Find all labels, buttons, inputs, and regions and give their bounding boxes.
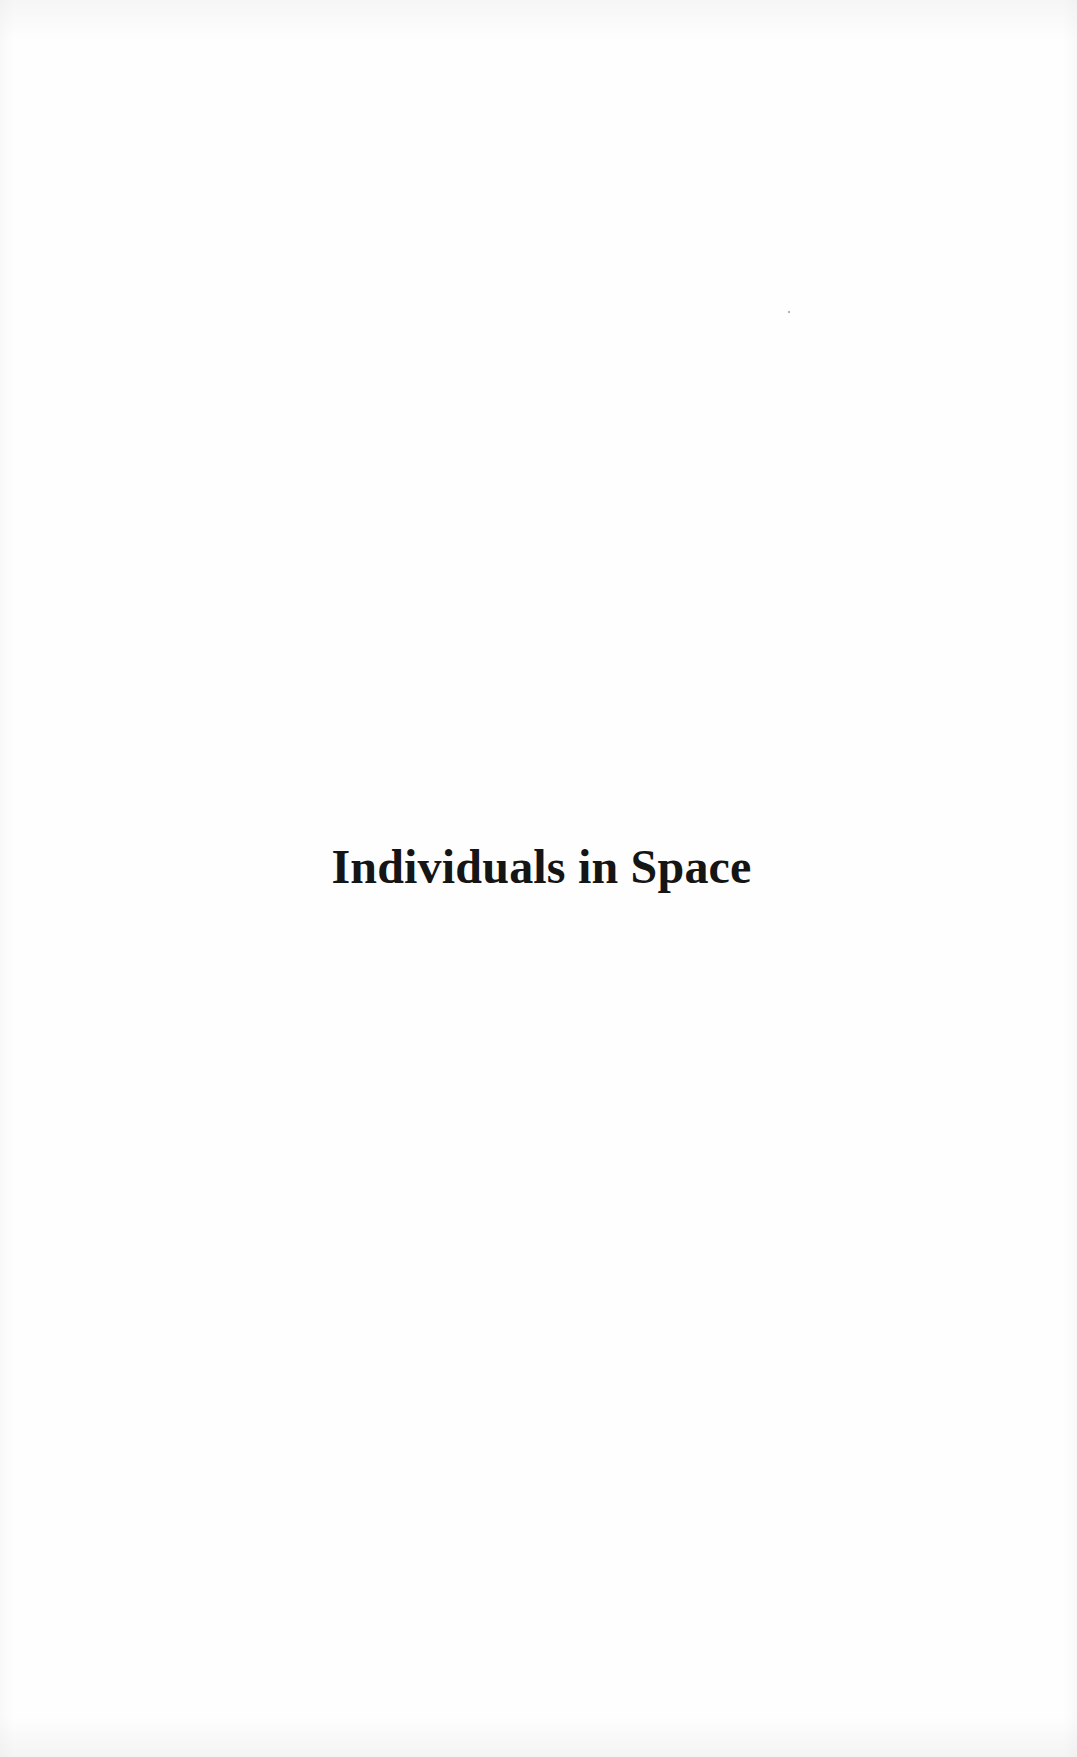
scan-speck <box>788 311 790 313</box>
half-title: Individuals in Space <box>0 843 1077 891</box>
book-page: Individuals in Space <box>0 0 1077 1757</box>
